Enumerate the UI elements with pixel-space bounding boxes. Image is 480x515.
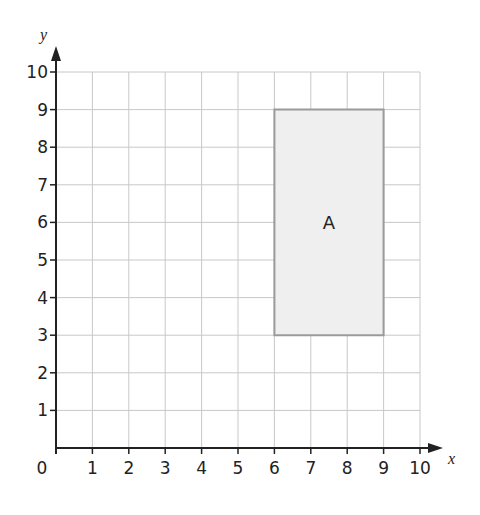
x-axis-label: x	[447, 450, 455, 467]
x-tick-label: 3	[160, 458, 171, 478]
shape-label: A	[323, 212, 336, 233]
shapes-layer: A	[274, 110, 383, 336]
x-tick-label: 9	[378, 458, 389, 478]
y-tick-label: 10	[26, 62, 48, 82]
y-axis-label: y	[38, 26, 48, 44]
x-tick-label: 4	[196, 458, 207, 478]
y-tick-label: 8	[37, 137, 48, 157]
y-tick-label: 7	[37, 175, 48, 195]
y-tick-label: 3	[37, 325, 48, 345]
x-tick-label: 10	[409, 458, 431, 478]
y-tick-label: 6	[37, 212, 48, 232]
y-tick-label: 9	[37, 100, 48, 120]
x-tick-label: 8	[342, 458, 353, 478]
y-tick-label: 2	[37, 363, 48, 383]
x-tick-label: 5	[233, 458, 244, 478]
x-tick-label: 6	[269, 458, 280, 478]
y-tick-label: 1	[37, 400, 48, 420]
y-tick-label: 5	[37, 250, 48, 270]
x-axis-arrow-icon	[428, 443, 443, 453]
origin-label: 0	[37, 458, 48, 478]
y-axis-arrow-icon	[51, 46, 61, 61]
x-tick-label: 2	[123, 458, 134, 478]
x-tick-label: 7	[305, 458, 316, 478]
coordinate-grid: A 12345678910123456789100xy	[0, 0, 480, 515]
x-tick-label: 1	[87, 458, 98, 478]
y-tick-label: 4	[37, 288, 48, 308]
